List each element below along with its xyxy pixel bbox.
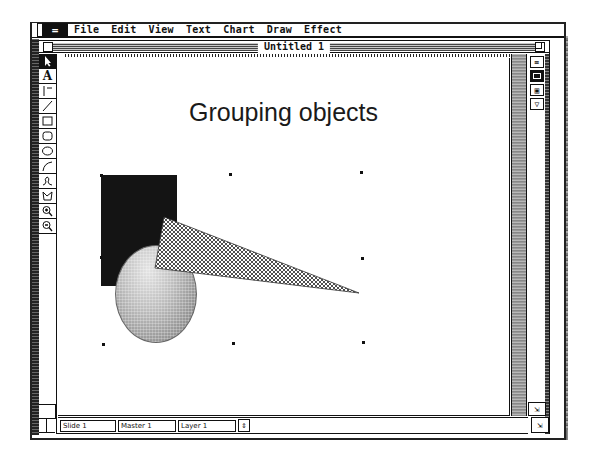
window-title: Untitled 1 [258,41,330,53]
selection-handle[interactable] [232,342,235,345]
selection-handle[interactable] [360,171,363,174]
menu-effect[interactable]: Effect [298,23,348,37]
tool-zoom-in[interactable] [39,204,56,219]
tool-pointer[interactable] [39,54,56,69]
menu-chart[interactable]: Chart [217,23,261,37]
apple-menu[interactable]: = [42,23,68,37]
selection-handle[interactable] [102,343,105,346]
menu-view[interactable]: View [143,23,180,37]
menu-edit[interactable]: Edit [105,23,142,37]
slide-view-button[interactable]: ≡ [530,56,544,68]
view-buttons-panel: ≡ ▣ ▽ [528,54,549,434]
zoom-in-icon [41,205,54,217]
polygon-icon [41,190,54,202]
text-tool-icon: A [43,69,52,83]
master-field[interactable]: Master 1 [118,420,176,432]
layer-field[interactable]: Layer 1 [178,420,236,432]
slide-sorter-view-button[interactable]: ▣ [530,84,544,96]
tool-oval[interactable] [39,144,56,159]
zoom-out-icon [41,220,54,232]
close-box[interactable] [43,42,53,52]
tool-zoom-out[interactable] [39,219,56,234]
menu-text[interactable]: Text [180,23,217,37]
oval-icon [41,145,54,157]
outline-view-button[interactable]: ▽ [530,98,544,110]
vertical-scrollbar[interactable] [511,54,527,416]
palette-cell[interactable] [39,419,47,433]
layer-popup-button[interactable]: ⇕ [238,419,250,432]
tool-freehand[interactable] [39,174,56,189]
slide-title[interactable]: Grouping objects [58,98,509,127]
tool-rounded-rectangle[interactable] [39,129,56,144]
tool-line[interactable] [39,99,56,114]
title-bar[interactable]: Untitled 1 [39,41,549,53]
menubar-edge [32,23,38,37]
menu-bar: = File Edit View Text Chart Draw Effect [32,24,564,38]
resize-handle-top[interactable]: ⇲ [528,402,546,416]
slide-sorter-icon: ▣ [535,86,540,95]
zoom-box[interactable] [535,42,545,52]
document-window: Untitled 1 A [38,40,550,434]
tool-rectangle[interactable] [39,114,56,129]
arc-icon [41,160,54,172]
rectangle-icon [41,115,54,127]
selection-handle[interactable] [361,257,364,260]
outline-view-icon: ▽ [535,100,540,109]
view-panel-strip [545,54,549,434]
screen: = File Edit View Text Chart Draw Effect … [30,22,566,440]
selection-handle[interactable] [229,173,232,176]
freehand-icon [41,175,54,187]
selection-handle[interactable] [362,341,365,344]
tool-text[interactable]: A [39,69,56,84]
rounded-rectangle-icon [41,130,54,142]
tool-palette-grid [39,404,56,434]
tool-arc[interactable] [39,159,56,174]
crosshatch-triangle-shape[interactable] [154,216,364,296]
ruler-dotted-line [65,54,515,57]
slide-number-field[interactable]: Slide 1 [60,420,116,432]
grow-box[interactable]: ⇲ [531,417,549,433]
orthogonal-line-icon [41,85,54,97]
selection-handle[interactable] [100,174,103,177]
arrow-pointer-icon [41,55,54,67]
menu-file[interactable]: File [68,23,105,37]
slide-view-icon: ≡ [535,58,540,67]
toolbox: A [39,54,57,434]
notes-view-button[interactable] [530,70,544,82]
palette-cell[interactable] [47,419,55,433]
menu-draw[interactable]: Draw [261,23,298,37]
tool-polygon[interactable] [39,189,56,204]
diagonal-line-icon [41,100,54,112]
bottom-status-bar: Slide 1 Master 1 Layer 1 ⇕ [58,417,528,433]
selection-handle[interactable] [100,256,103,259]
window-left-strip [32,39,39,435]
palette-cell[interactable] [39,405,56,419]
tool-orthogonal-line[interactable] [39,84,56,99]
slide-canvas[interactable]: Grouping objects [58,58,510,416]
